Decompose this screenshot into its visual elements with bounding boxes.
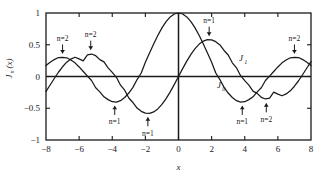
x-tick-label: 8 — [309, 144, 314, 154]
bessel-function-plot: −8−6−4−202468−1−0.500.51J1J0n=2n=2n=1n=1… — [0, 0, 326, 178]
chart-figure: −8−6−4−202468−1−0.500.51J1J0n=2n=2n=1n=1… — [0, 0, 326, 178]
x-tick-label: 4 — [243, 144, 248, 154]
y-axis-title: Jn(x) — [4, 59, 15, 79]
annotation-label: n=2 — [289, 34, 301, 43]
annotation-n-2: n=2 — [260, 103, 272, 124]
annotation-arrow-head — [112, 106, 117, 109]
y-tick-label: 0 — [36, 72, 41, 82]
annotation-arrow-head — [292, 50, 297, 53]
x-tick-label: 6 — [276, 144, 281, 154]
annotation-n-2: n=2 — [85, 30, 97, 50]
annotation-arrow-head — [240, 106, 245, 109]
annotation-arrow-head — [145, 117, 150, 120]
y-tick-label: 1 — [36, 8, 41, 18]
svg-text:0: 0 — [222, 85, 226, 92]
annotation-n-2: n=2 — [57, 34, 69, 54]
x-tick-label: −2 — [141, 144, 151, 154]
x-tick-label: −6 — [74, 144, 84, 154]
annotation-label: n=2 — [260, 115, 272, 124]
annotation-label: n=2 — [57, 34, 69, 43]
annotation-n-1: n=1 — [236, 106, 248, 127]
annotation-n-1: n=1 — [109, 106, 121, 127]
x-tick-label: 0 — [176, 144, 181, 154]
annotation-arrow-head — [60, 50, 65, 53]
svg-text:n: n — [8, 70, 15, 73]
annotation-n-1: n=1 — [142, 117, 154, 138]
annotation-label: n=1 — [203, 16, 215, 25]
y-tick-label: 0.5 — [29, 40, 41, 50]
annotation-arrow-head — [88, 46, 93, 49]
curve-label-J1: J1 — [239, 53, 247, 65]
annotation-n-1: n=1 — [203, 16, 215, 35]
annotation-label: n=1 — [236, 117, 248, 126]
x-tick-label: 2 — [209, 144, 214, 154]
x-tick-label: −4 — [107, 144, 117, 154]
annotation-label: n=1 — [109, 117, 121, 126]
svg-text:1: 1 — [244, 58, 247, 65]
x-axis-title: x — [176, 162, 181, 172]
svg-text:(x): (x) — [4, 59, 14, 69]
annotation-arrow-head — [264, 103, 269, 106]
annotation-arrow-head — [207, 32, 212, 35]
x-tick-label: −8 — [41, 144, 51, 154]
y-tick-label: −1 — [30, 135, 40, 145]
annotation-label: n=2 — [85, 30, 97, 39]
annotation-n-2: n=2 — [289, 34, 301, 54]
annotation-label: n=1 — [142, 129, 154, 138]
y-tick-label: −0.5 — [24, 103, 41, 113]
